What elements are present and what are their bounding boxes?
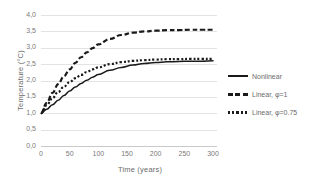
legend-item-label: Nonlinear <box>252 73 282 80</box>
legend-line-icon <box>228 108 248 116</box>
series-line-1 <box>41 61 213 113</box>
chart-legend: NonlinearLinear, φ=1Linear, φ=0.75 <box>228 70 316 124</box>
legend-line-icon <box>228 90 248 98</box>
legend-item[interactable]: Nonlinear <box>228 70 316 83</box>
legend-item[interactable]: Linear, φ=1 <box>228 88 316 101</box>
legend-item-label: Linear, φ=0.75 <box>252 109 297 116</box>
chart-container: Temperature (°C) Time (years) 0,00,51,01… <box>0 0 317 180</box>
series-line-2 <box>41 30 213 114</box>
legend-item[interactable]: Linear, φ=0.75 <box>228 106 316 119</box>
legend-line-icon <box>228 72 248 80</box>
legend-item-label: Linear, φ=1 <box>252 91 287 98</box>
